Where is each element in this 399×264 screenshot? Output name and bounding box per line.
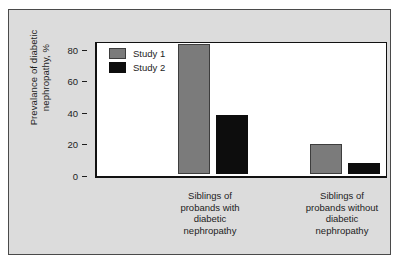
bar-study-1-group-1	[178, 44, 210, 174]
figure-panel: Prevalance of diabetic nephropathy, % 02…	[8, 9, 391, 255]
y-tick-label: 40	[67, 107, 78, 118]
y-tick-mark	[82, 176, 87, 177]
y-tick-mark	[82, 50, 87, 51]
bar-study-2-group-1	[216, 115, 248, 174]
y-tick-label: 80	[67, 44, 78, 55]
bar-study-1-group-2	[310, 144, 342, 174]
y-tick-label: 20	[67, 139, 78, 150]
bars-layer	[97, 43, 386, 176]
y-tick-label: 0	[73, 171, 78, 182]
category-label: Siblings of probands with diabetic nephr…	[145, 190, 275, 236]
y-axis-tick-labels: 020406080	[61, 40, 87, 180]
y-tick-mark	[82, 113, 87, 114]
y-tick-mark	[82, 144, 87, 145]
y-tick-mark	[82, 81, 87, 82]
y-tick-label: 60	[67, 76, 78, 87]
y-axis-title: Prevalance of diabetic nephropathy, %	[28, 10, 51, 146]
bar-study-2-group-2	[348, 163, 380, 174]
plot-area: Study 1Study 2	[95, 42, 387, 178]
category-label: Siblings of probands without diabetic ne…	[277, 190, 399, 236]
